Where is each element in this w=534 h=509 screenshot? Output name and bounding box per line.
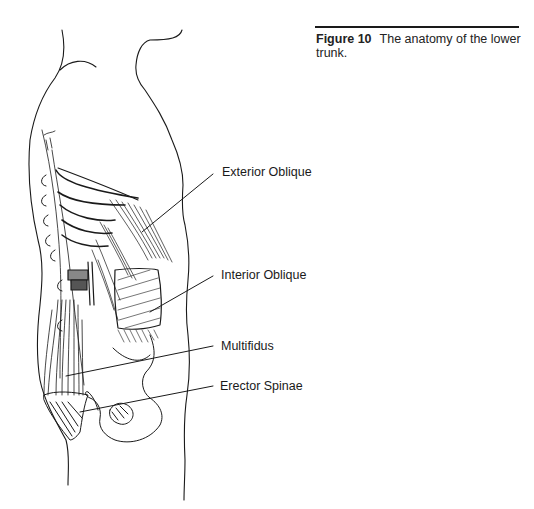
label-erector-spinae: Erector Spinae [220, 379, 303, 393]
caption-rule [315, 26, 519, 28]
label-multifidus: Multifidus [221, 339, 274, 353]
figure-caption: Figure 10The anatomy of the lower trunk. [316, 32, 526, 60]
leader-exterior-oblique [142, 174, 213, 232]
leader-lines [66, 174, 213, 412]
erector-spinae-base [44, 392, 88, 440]
leader-multifidus [66, 346, 213, 376]
pelvis [86, 335, 162, 442]
interior-oblique-muscle [115, 269, 162, 330]
label-interior-oblique: Interior Oblique [221, 268, 306, 282]
figure-number: Figure 10 [316, 32, 372, 46]
spine-processes [42, 175, 63, 331]
body-outline [29, 30, 190, 500]
label-exterior-oblique: Exterior Oblique [222, 165, 312, 179]
trunk-anatomy-illustration [0, 0, 534, 509]
leader-erector-spinae [80, 386, 213, 412]
exterior-oblique-muscle [92, 200, 172, 320]
lumbar-block [68, 262, 94, 305]
